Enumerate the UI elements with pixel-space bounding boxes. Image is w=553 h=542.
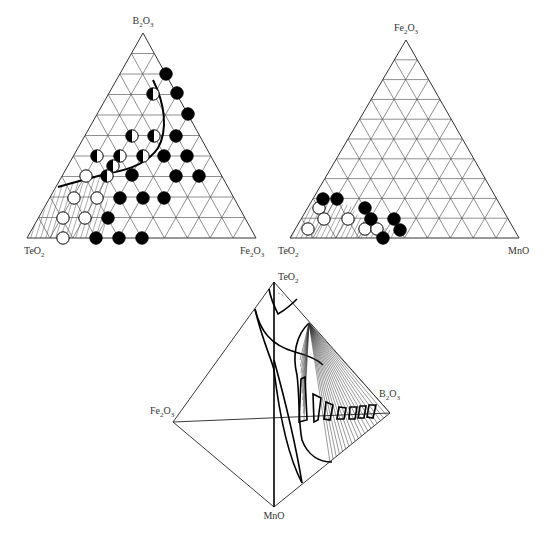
filled-circle-point: [359, 202, 371, 214]
composition-points: [302, 193, 406, 244]
tie-line-fan: [300, 323, 390, 462]
filled-circle-point: [388, 213, 400, 225]
open-circle-point: [342, 213, 354, 225]
vertex-label-bottom: MnO: [263, 510, 284, 521]
filled-circle-point: [317, 193, 329, 205]
vertex-label-right: MnO: [508, 245, 529, 256]
half-filled-circle-point: [148, 130, 160, 142]
filled-circle-point: [102, 212, 114, 224]
open-circle-point: [68, 192, 80, 204]
vertex-label-left: TeO2: [24, 245, 45, 259]
open-circle-point: [318, 213, 330, 225]
filled-circle-point: [394, 224, 406, 236]
filled-circle-point: [113, 232, 125, 244]
filled-circle-point: [126, 169, 138, 181]
ternary-diagram-1: B2O3 TeO2 Fe2O3: [10, 15, 265, 259]
filled-circle-point: [331, 193, 343, 205]
hatched-glass-region: [10, 170, 137, 240]
half-filled-circle-point: [101, 170, 113, 182]
filled-circle-point: [171, 87, 183, 99]
tetrahedron-diagram: TeO2 Fe2O3 MnO B2O3: [150, 271, 400, 521]
phase-diagram-figure: B2O3 TeO2 Fe2O3 Fe2O3 TeO2 MnO: [0, 0, 553, 542]
grid-lines: [302, 60, 508, 238]
filled-circle-point: [158, 150, 170, 162]
vertex-label-top: TeO2: [278, 271, 299, 285]
half-filled-circle-point: [126, 130, 138, 142]
half-filled-circle-point: [91, 150, 103, 162]
open-circle-point: [57, 212, 69, 224]
filled-circle-point: [90, 232, 102, 244]
filled-circle-point: [114, 192, 126, 204]
vertex-label-left: Fe2O3: [150, 405, 175, 419]
filled-circle-point: [170, 170, 182, 182]
vertex-label-top: B2O3: [133, 15, 154, 29]
filled-circle-point: [158, 192, 170, 204]
filled-circle-point: [365, 213, 377, 225]
filled-circle-point: [136, 232, 148, 244]
glass-region-top-dash: [278, 293, 284, 296]
open-circle-point: [91, 192, 103, 204]
filled-circle-point: [137, 192, 149, 204]
filled-circle-point: [181, 150, 193, 162]
filled-circle-point: [193, 170, 205, 182]
vertex-label-left: TeO2: [278, 245, 299, 259]
filled-circle-point: [182, 108, 194, 120]
vertex-label-right: Fe2O3: [240, 245, 265, 259]
vertex-label-right: B2O3: [379, 388, 400, 402]
open-circle-point: [302, 223, 314, 235]
open-circle-point: [79, 212, 91, 224]
filled-circle-point: [377, 232, 389, 244]
half-filled-circle-point: [137, 150, 149, 162]
half-filled-circle-point: [147, 88, 159, 100]
filled-circle-point: [170, 130, 182, 142]
vertex-label-top: Fe2O3: [394, 22, 419, 36]
open-circle-point: [57, 232, 69, 244]
filled-circle-point: [160, 68, 172, 80]
open-circle-point: [80, 170, 92, 182]
ternary-diagram-2: Fe2O3 TeO2 MnO: [270, 22, 529, 259]
